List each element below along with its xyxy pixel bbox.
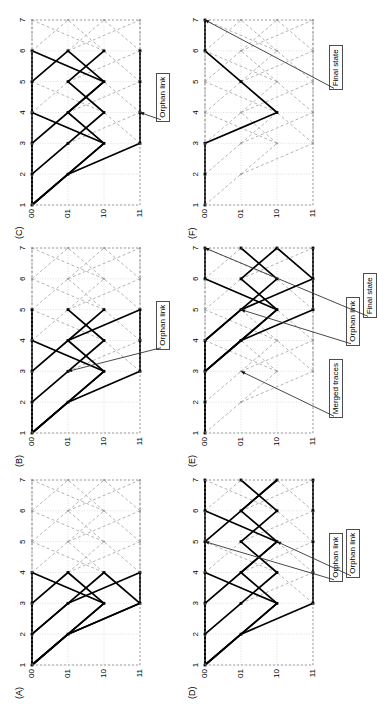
state-tick-label: 01 (236, 209, 245, 227)
time-tick-label: 1 (191, 201, 200, 209)
annotation-orphan-link: Orphan link (346, 529, 360, 578)
annotation-orphan-link: Orphan link (346, 297, 360, 346)
state-tick-label: 10 (272, 209, 281, 227)
annotation-merged-traces: Merged traces (329, 359, 343, 418)
time-tick-label: 5 (191, 78, 200, 86)
annotation-final-state: Final state (363, 273, 377, 318)
time-tick-label: 6 (191, 47, 200, 55)
state-tick-label: 11 (308, 209, 317, 227)
time-tick-label: 7 (191, 16, 200, 24)
time-tick-label: 3 (191, 139, 200, 147)
annotation-orphan-link: Orphan link (329, 533, 343, 582)
panel-label-f: (F) (187, 228, 197, 240)
time-tick-label: 4 (191, 109, 200, 117)
state-tick-label: 00 (200, 209, 209, 227)
annotation-final-state: Final state (329, 45, 343, 90)
time-tick-label: 2 (191, 170, 200, 178)
